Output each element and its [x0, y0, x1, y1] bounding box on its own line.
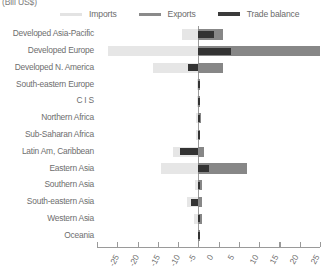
bar-imports [182, 29, 198, 39]
bars-container [97, 26, 320, 244]
bar-balance [198, 98, 200, 105]
x-axis-tick-label: 10 [247, 253, 260, 266]
bar-balance [188, 64, 199, 71]
x-axis-tick-label: 25 [308, 253, 321, 266]
x-axis [97, 247, 320, 249]
x-axis-tick [198, 242, 199, 247]
x-axis-tick-label: 15 [268, 253, 281, 266]
category-label: Southern Asia [0, 180, 94, 189]
trade-balance-chart: (Bill US$) Imports Exports Trade balance… [0, 0, 325, 277]
category-label: Developed Asia-Pacific [0, 29, 94, 38]
category-label: C I S [0, 96, 94, 105]
bar-balance [198, 131, 200, 138]
category-label: Developed Europe [0, 46, 94, 55]
bar-balance [198, 182, 200, 189]
legend-swatch-trade-balance-icon [218, 12, 240, 16]
bar-balance [198, 31, 214, 38]
legend-swatch-imports-icon [60, 13, 82, 16]
category-label: Sub-Saharan Africa [0, 130, 94, 139]
bar-exports [198, 197, 202, 207]
category-label: Latin Am, Caribbean [0, 147, 94, 156]
bar-balance [180, 148, 199, 155]
x-axis-tick [117, 242, 118, 247]
legend-item-trade-balance: Trade balance [218, 9, 300, 19]
axis-unit-label: (Bill US$) [2, 0, 37, 7]
x-axis-tick-label: -10 [168, 253, 182, 268]
bar-balance [198, 115, 200, 122]
legend-label-trade-balance: Trade balance [247, 9, 300, 19]
x-axis-tick [219, 242, 220, 247]
category-label: South-eastern Asia [0, 197, 94, 206]
x-axis-line [97, 247, 320, 248]
bar-imports [108, 46, 198, 56]
legend-label-exports: Exports [168, 9, 196, 19]
legend-item-imports: Imports [60, 9, 117, 19]
x-axis-tick-label: -20 [127, 253, 141, 268]
category-label: South-eastern Europe [0, 80, 94, 89]
legend-swatch-exports-icon [139, 13, 161, 16]
legend-label-imports: Imports [89, 9, 117, 19]
bar-balance [198, 232, 200, 239]
x-axis-tick [279, 242, 280, 247]
x-axis-tick-label: -25 [107, 253, 121, 268]
x-axis-tick-label: 0 [205, 253, 216, 262]
bar-exports [198, 63, 223, 73]
chart-legend: Imports Exports Trade balance [60, 7, 325, 21]
x-axis-tick [97, 242, 98, 247]
bar-imports [161, 163, 199, 173]
bar-balance [198, 165, 209, 172]
x-axis-tick-label: -5 [186, 253, 198, 264]
x-axis-tick [259, 242, 260, 247]
x-axis-tick [300, 242, 301, 247]
x-axis-tick-label: -15 [147, 253, 161, 268]
bar-balance [198, 215, 200, 222]
x-axis-tick [138, 242, 139, 247]
category-label: Northern Africa [0, 113, 94, 122]
category-label: Oceania [0, 231, 94, 240]
plot-area: Developed Asia-PacificDeveloped EuropeDe… [0, 26, 325, 244]
bar-exports [198, 147, 203, 157]
bar-balance [198, 48, 230, 55]
x-axis-tick-label: 5 [225, 253, 236, 262]
x-axis-tick [158, 242, 159, 247]
category-label: Western Asia [0, 214, 94, 223]
bar-balance [191, 199, 199, 206]
x-axis-tick [320, 242, 321, 247]
bar-balance [198, 81, 200, 88]
x-axis-tick-label: 20 [288, 253, 301, 266]
category-label: Developed N. America [0, 63, 94, 72]
x-axis-tick [178, 242, 179, 247]
category-label: Eastern Asia [0, 164, 94, 173]
category-axis-labels: Developed Asia-PacificDeveloped EuropeDe… [0, 26, 96, 244]
x-axis-tick [239, 242, 240, 247]
legend-item-exports: Exports [139, 9, 196, 19]
